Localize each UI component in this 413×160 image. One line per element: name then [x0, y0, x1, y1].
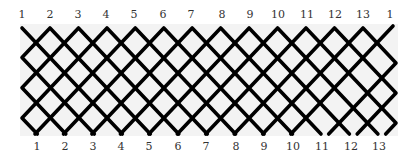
bottom-label-5: 5: [146, 140, 153, 153]
bottom-label-10: 10: [286, 140, 300, 153]
bottom-label-6: 6: [175, 140, 182, 153]
bottom-label-2: 2: [62, 140, 69, 153]
top-label-10: 10: [271, 8, 285, 21]
bottom-label-7: 7: [203, 140, 210, 153]
top-label-9: 9: [247, 8, 254, 21]
bottom-label-11: 11: [315, 140, 329, 153]
bottom-label-9: 9: [261, 140, 268, 153]
top-label-7: 7: [188, 8, 195, 21]
bottom-label-8: 8: [233, 140, 240, 153]
top-label-6: 6: [160, 8, 167, 21]
top-label-13: 13: [356, 8, 370, 21]
top-label-3: 3: [75, 8, 82, 21]
bottom-label-12: 12: [344, 140, 358, 153]
bottom-label-1: 1: [34, 140, 41, 153]
top-label-2: 2: [47, 8, 54, 21]
top-label-12: 12: [328, 8, 342, 21]
braid-diagram: 123456789101112131 12345678910111213: [0, 0, 413, 160]
top-label-11: 11: [300, 8, 314, 21]
top-label-1: 1: [19, 8, 26, 21]
top-label-14: 1: [387, 8, 394, 21]
top-label-4: 4: [103, 8, 110, 21]
bottom-label-4: 4: [118, 140, 125, 153]
top-label-5: 5: [131, 8, 138, 21]
bottom-label-3: 3: [90, 140, 97, 153]
bottom-label-13: 13: [372, 140, 386, 153]
bottom-strand-labels: 12345678910111213: [34, 140, 387, 153]
top-label-8: 8: [219, 8, 226, 21]
top-strand-labels: 123456789101112131: [19, 8, 394, 21]
